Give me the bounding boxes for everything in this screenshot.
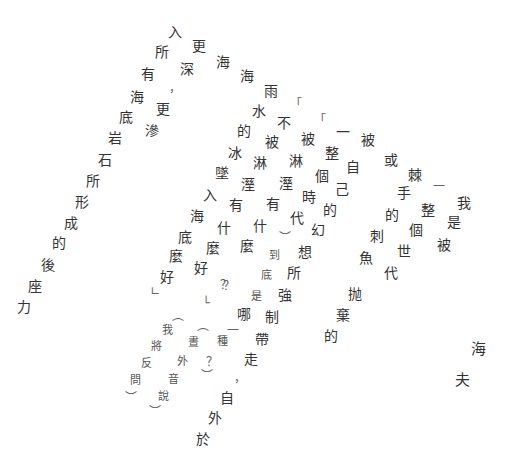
poem-glyph: 石: [97, 153, 113, 167]
poem-glyph: ︶: [123, 391, 139, 405]
poem-glyph: 被: [360, 133, 376, 147]
poem-glyph: 幻: [310, 223, 326, 237]
poem-glyph: ，: [167, 81, 183, 95]
poem-glyph: ，: [232, 371, 248, 385]
poem-glyph: 一: [431, 180, 447, 194]
poem-glyph: 墜: [214, 166, 230, 180]
poem-glyph: 海: [470, 342, 486, 356]
poem-glyph: 所: [154, 45, 170, 59]
poem-glyph: 夫: [454, 373, 470, 387]
poem-glyph: 底: [258, 269, 274, 283]
poem-glyph: 滲: [144, 124, 160, 138]
poem-glyph: 被: [264, 135, 280, 149]
poem-glyph: 不: [276, 116, 292, 130]
poem-glyph: 岩: [107, 131, 123, 145]
poem-glyph: 好: [159, 270, 175, 284]
poem-glyph: 強: [277, 288, 293, 302]
poem-glyph: 到: [266, 249, 282, 263]
poem-glyph: 想: [297, 245, 313, 259]
poem-glyph: 時: [301, 190, 317, 204]
poem-glyph: ︶: [199, 369, 215, 383]
poem-glyph: 麼: [168, 249, 184, 263]
poem-glyph: 於: [195, 432, 211, 446]
poem-glyph: 所: [286, 266, 302, 280]
poem-glyph: 走: [243, 352, 259, 366]
poem-glyph: 什: [216, 221, 232, 235]
poem-glyph: 淋: [252, 156, 268, 170]
poem-glyph: ︶: [277, 231, 293, 245]
poem-glyph: 什: [252, 219, 268, 233]
poem-glyph: 一: [335, 125, 351, 139]
poem-glyph: 力: [16, 300, 32, 314]
poem-glyph: ∟: [147, 284, 163, 298]
poem-glyph: 是: [446, 215, 462, 229]
poem-glyph: 所: [85, 174, 101, 188]
poem-glyph: 的: [384, 208, 400, 222]
poem-glyph: 深: [179, 62, 195, 76]
poem-glyph: 底: [177, 230, 193, 244]
poem-glyph: 的: [322, 203, 338, 217]
poem-glyph: 形: [74, 195, 90, 209]
poem-glyph: 整: [324, 146, 340, 160]
poem-glyph: 有: [228, 198, 244, 212]
poem-glyph: 更: [155, 102, 171, 116]
poem-glyph: 手: [396, 186, 412, 200]
poem-glyph: 我: [159, 324, 175, 338]
poem-glyph: 刺: [369, 229, 385, 243]
poem-glyph: ︵: [170, 309, 186, 323]
poem-glyph: 底: [118, 110, 134, 124]
poem-glyph: 更: [191, 39, 207, 53]
poem-glyph: 魚: [358, 251, 374, 265]
poem-glyph: 「: [312, 113, 328, 127]
poem-glyph: 是: [248, 290, 264, 304]
poem-glyph: 座: [27, 279, 43, 293]
poem-glyph: └: [198, 296, 214, 310]
poem-glyph: 種: [214, 335, 230, 349]
poem-glyph: 說: [155, 390, 171, 404]
poem-glyph: 溼: [278, 176, 294, 190]
poem-glyph: 淋: [288, 154, 304, 168]
poem-glyph: 麼: [239, 239, 255, 253]
poem-glyph: 有: [140, 67, 156, 81]
poem-glyph: 入: [202, 188, 218, 202]
poem-glyph: 帶: [254, 332, 270, 346]
poem-glyph: 問: [127, 374, 143, 388]
poem-glyph: 水: [251, 104, 267, 118]
poem-glyph: 麼: [205, 241, 221, 255]
poem-glyph: 抛: [347, 287, 363, 301]
poem-glyph: 自: [219, 391, 235, 405]
poem-glyph: 音: [165, 373, 181, 387]
poem-glyph: 海: [215, 55, 231, 69]
poem-glyph: 代: [289, 211, 305, 225]
diagonal-poem: 入所有海底岩石所形成的後座力更深，更滲海海雨水的冰墜入海底麼好∟「不被淋溼有什麼…: [0, 0, 511, 455]
poem-glyph: 個: [314, 169, 330, 183]
poem-glyph: ︵: [195, 319, 211, 333]
poem-glyph: 棄: [335, 308, 351, 322]
poem-glyph: 「: [288, 97, 304, 111]
poem-glyph: 整: [420, 203, 436, 217]
poem-glyph: ？: [204, 355, 220, 369]
poem-glyph: 代: [383, 266, 399, 280]
poem-glyph: 的: [236, 124, 252, 138]
poem-glyph: 好: [193, 261, 209, 275]
poem-glyph: 外: [207, 411, 223, 425]
poem-glyph: 己: [334, 182, 350, 196]
poem-glyph: 我: [456, 196, 472, 210]
poem-glyph: 外: [174, 355, 190, 369]
poem-glyph: 自: [345, 160, 361, 174]
poem-glyph: 棘: [407, 168, 423, 182]
poem-glyph: 海: [129, 90, 145, 104]
poem-glyph: 溼: [240, 177, 256, 191]
poem-glyph: ︶: [147, 405, 163, 419]
poem-glyph: 個: [408, 223, 424, 237]
poem-glyph: 被: [300, 132, 316, 146]
poem-glyph: 冰: [227, 146, 243, 160]
poem-glyph: 反: [138, 357, 154, 371]
poem-glyph: 入: [167, 25, 183, 39]
poem-glyph: 將: [148, 340, 164, 354]
poem-glyph: 雨: [263, 84, 279, 98]
poem-glyph: 有: [265, 197, 281, 211]
poem-glyph: 的: [51, 236, 67, 250]
poem-glyph: 或: [383, 153, 399, 167]
poem-glyph: 的: [323, 329, 339, 343]
